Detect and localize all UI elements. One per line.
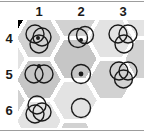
cell-c3-r4[interactable] — [102, 20, 144, 56]
cell-c2-r4[interactable] — [60, 20, 102, 56]
cell-c3-r4-glyphs — [102, 20, 144, 56]
row-header-4: 4 — [0, 20, 18, 56]
puzzle-board — [18, 20, 144, 128]
cell-c3-r4-circle-3 — [115, 35, 133, 53]
column-header-2: 2 — [60, 4, 102, 20]
bottom-divider — [0, 130, 144, 131]
column-header-row: 1 2 3 — [18, 4, 144, 20]
cell-c1-r5-glyphs — [18, 56, 60, 92]
puzzle-grid-app: 1 2 3 4 5 6 — [0, 0, 144, 133]
cell-c3-r6-glyphs — [102, 92, 144, 128]
cell-c3-r4-circle-1 — [109, 25, 127, 43]
cell-c1-r4-dot-1 — [36, 36, 40, 40]
cell-c3-r5[interactable] — [102, 56, 144, 92]
cell-c1-r5[interactable] — [18, 56, 60, 92]
cell-c3-r5-glyphs — [102, 56, 144, 92]
cell-c1-r6-glyphs — [18, 92, 60, 128]
cell-c2-r5-dot-1 — [79, 72, 84, 77]
cell-c2-r6[interactable] — [60, 92, 102, 128]
cell-c2-r6-glyphs — [60, 92, 102, 128]
row-header-5: 5 — [0, 56, 18, 92]
row-header-column: 4 5 6 — [0, 20, 18, 128]
puzzle-cell-layer — [18, 20, 144, 128]
cell-c3-r4-circle-2 — [119, 25, 137, 43]
cell-c2-r4-circle-2 — [77, 27, 94, 44]
top-divider — [0, 1, 144, 2]
cell-c1-r5-dot-1 — [37, 64, 41, 68]
cell-c3-r6[interactable] — [102, 92, 144, 128]
cell-c1-r4[interactable] — [18, 20, 60, 56]
row-header-6: 6 — [0, 92, 18, 128]
cell-c2-r5-glyphs — [60, 56, 102, 92]
cell-c2-r6-circle-1 — [72, 99, 91, 118]
cell-c2-r4-dot-1 — [79, 38, 83, 42]
cell-c1-r5-circle-1 — [25, 65, 43, 83]
column-header-3: 3 — [102, 4, 144, 20]
column-header-1: 1 — [18, 4, 60, 20]
cell-c2-r5[interactable] — [60, 56, 102, 92]
cell-c1-r4-glyphs — [18, 20, 60, 56]
cell-c1-r5-circle-2 — [35, 65, 53, 83]
cell-c1-r6[interactable] — [18, 92, 60, 128]
cell-c2-r4-glyphs — [60, 20, 102, 56]
